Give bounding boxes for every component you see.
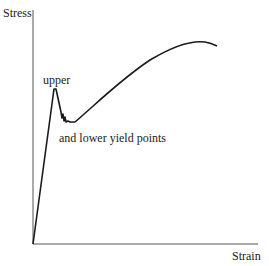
y-axis-label: Stress [3, 7, 32, 19]
lower-yield-annotation: and lower yield points [59, 132, 166, 144]
x-axis-label: Strain [232, 250, 261, 262]
upper-yield-annotation: upper [43, 74, 70, 86]
stress-strain-diagram: Stress Strain upper and lower yield poin… [0, 0, 269, 266]
